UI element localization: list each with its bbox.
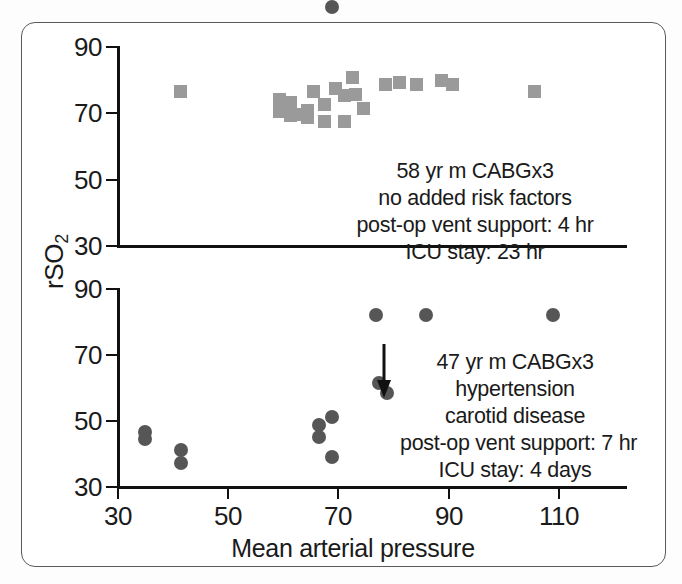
bottom-panel-ytick-label-50: 50: [56, 408, 102, 434]
bottom-panel-x-axis: [117, 486, 627, 489]
bottom-panel-xtick-50: [227, 488, 229, 499]
bottom-panel-ytick-label-30: 30: [56, 474, 102, 500]
bottom-panel-xtick-label-50: 50: [193, 503, 263, 529]
bottom-panel-ytick-label-90: 90: [56, 276, 102, 302]
bottom-panel-xtick-label-90: 90: [414, 503, 484, 529]
bottom-panel-annotation: 47 yr m CABGx3 hypertension carotid dise…: [400, 349, 630, 484]
data-point: [325, 450, 339, 464]
bottom-panel-xtick-label-70: 70: [303, 503, 373, 529]
bottom-panel-xtick-label-30: 30: [83, 503, 153, 529]
data-point: [325, 0, 339, 14]
bottom-panel-y-axis: [117, 288, 120, 489]
data-point: [546, 308, 560, 322]
annotation-line: 47 yr m CABGx3: [400, 349, 630, 376]
bottom-panel-ytick-label-70: 70: [56, 342, 102, 368]
annotation-line: hypertension: [400, 376, 630, 403]
bottom-panel-tick-30: [106, 486, 117, 488]
data-point: [174, 443, 188, 457]
bottom-panel: 90 70 50 30 30 50 70 90 110: [0, 0, 682, 584]
data-point: [325, 410, 339, 424]
data-point: [138, 432, 152, 446]
bottom-panel-tick-50: [106, 420, 117, 422]
bottom-panel-xtick-30: [117, 488, 119, 499]
bottom-panel-xtick-110: [558, 488, 560, 499]
data-point: [419, 308, 433, 322]
x-axis-title: Mean arterial pressure: [118, 534, 588, 563]
bottom-panel-xtick-70: [337, 488, 339, 499]
annotation-line: carotid disease: [400, 403, 630, 430]
bottom-panel-tick-70: [106, 354, 117, 356]
data-point: [369, 308, 383, 322]
bottom-panel-xtick-label-110: 110: [524, 503, 594, 529]
data-point: [312, 430, 326, 444]
bottom-panel-tick-90: [106, 288, 117, 290]
annotation-line: ICU stay: 4 days: [400, 457, 630, 484]
down-arrow-icon: [376, 344, 392, 398]
annotation-line: post-op vent support: 7 hr: [400, 430, 630, 457]
figure-root: rSO2 90 70 50 30: [0, 0, 682, 584]
data-point: [174, 456, 188, 470]
bottom-panel-xtick-90: [448, 488, 450, 499]
